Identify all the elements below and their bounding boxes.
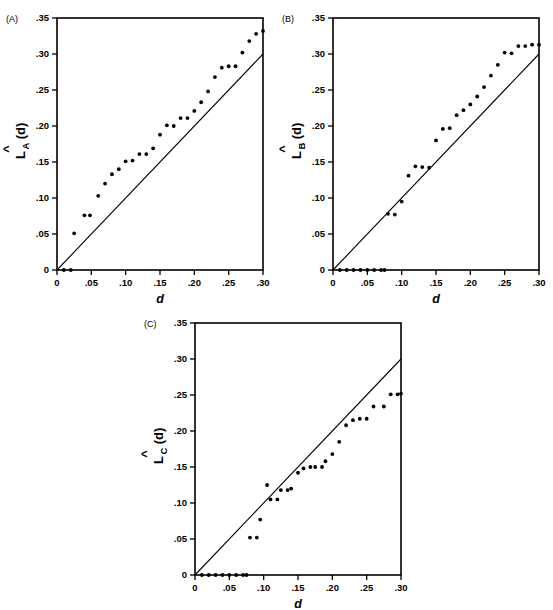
y-axis-title-tail-A: (d) bbox=[13, 123, 28, 140]
panel-label-A: (A) bbox=[6, 14, 18, 24]
data-point bbox=[199, 100, 203, 104]
data-point bbox=[258, 518, 262, 522]
data-series-A-0 bbox=[62, 29, 265, 272]
y-tick-label-B-7: .35 bbox=[312, 12, 326, 23]
data-point bbox=[213, 75, 217, 79]
plot-a-content: (A)0.05.10.15.20.25.30.350.05.10.15.20.2… bbox=[0, 12, 270, 305]
x-tick-label-A-6: .30 bbox=[256, 277, 269, 288]
x-tick-label-C-5: .25 bbox=[360, 582, 374, 593]
reference-line-C bbox=[195, 359, 401, 575]
x-axis-title-A: d bbox=[156, 292, 164, 305]
data-point bbox=[296, 471, 300, 475]
data-point bbox=[302, 467, 306, 471]
data-point bbox=[344, 423, 348, 427]
y-axis-title-main-B: L bbox=[289, 151, 304, 159]
x-tick-label-B-2: .10 bbox=[395, 277, 408, 288]
reference-line-B bbox=[333, 54, 539, 270]
data-point bbox=[359, 268, 363, 272]
y-tick-label-B-0: 0 bbox=[320, 264, 325, 275]
x-tick-label-C-3: .15 bbox=[291, 582, 305, 593]
scatter-plot-a: (A)0.05.10.15.20.25.30.350.05.10.15.20.2… bbox=[0, 0, 277, 305]
y-tick-label-B-4: .20 bbox=[312, 120, 325, 131]
data-point bbox=[372, 405, 376, 409]
data-point bbox=[279, 488, 283, 492]
y-axis-title-C: ^LC(d) bbox=[138, 428, 169, 464]
x-tick-label-C-0: 0 bbox=[192, 582, 197, 593]
y-axis-title-A: ^LA(d) bbox=[0, 123, 31, 159]
plot-frame-A bbox=[57, 18, 263, 270]
data-point bbox=[117, 167, 121, 171]
panel-label-B: (B) bbox=[282, 14, 294, 24]
data-point bbox=[379, 268, 383, 272]
data-point bbox=[345, 268, 349, 272]
data-point bbox=[386, 212, 390, 216]
data-point bbox=[389, 392, 393, 396]
y-axis-title-main-A: L bbox=[13, 151, 28, 159]
panel-label-C: (C) bbox=[144, 319, 157, 329]
y-axis-title-subscript-A: A bbox=[20, 142, 31, 149]
data-point bbox=[241, 573, 245, 577]
y-tick-label-A-5: .25 bbox=[36, 84, 50, 95]
data-point bbox=[414, 164, 418, 168]
data-series-B-0 bbox=[338, 43, 541, 272]
x-tick-label-B-6: .30 bbox=[532, 277, 545, 288]
data-point bbox=[207, 573, 211, 577]
data-point bbox=[200, 573, 204, 577]
x-tick-label-B-1: .05 bbox=[361, 277, 375, 288]
data-point bbox=[434, 139, 438, 143]
y-tick-label-A-3: .15 bbox=[36, 156, 50, 167]
data-point bbox=[382, 405, 386, 409]
x-tick-label-C-4: .20 bbox=[326, 582, 339, 593]
scatter-plot-b: (B)0.05.10.15.20.25.30.350.05.10.15.20.2… bbox=[276, 0, 553, 305]
y-axis-title-subscript-C: C bbox=[158, 447, 169, 454]
x-tick-label-B-3: .15 bbox=[429, 277, 443, 288]
data-point bbox=[165, 123, 169, 127]
data-point bbox=[393, 213, 397, 217]
data-point bbox=[124, 159, 128, 163]
data-point bbox=[62, 268, 66, 272]
y-tick-label-C-4: .20 bbox=[174, 425, 187, 436]
data-point bbox=[358, 417, 362, 421]
data-point bbox=[72, 231, 76, 235]
y-tick-label-A-2: .10 bbox=[36, 192, 49, 203]
data-point bbox=[192, 109, 196, 113]
data-point bbox=[441, 127, 445, 131]
data-point bbox=[158, 133, 162, 137]
data-point bbox=[265, 483, 269, 487]
x-tick-label-C-2: .10 bbox=[257, 582, 270, 593]
data-point bbox=[220, 66, 224, 70]
data-point bbox=[330, 452, 334, 456]
data-point bbox=[83, 213, 87, 217]
data-point bbox=[214, 573, 218, 577]
data-point bbox=[468, 103, 472, 107]
data-series-C-0 bbox=[200, 392, 403, 577]
plot-frame-C bbox=[195, 323, 401, 575]
data-point bbox=[186, 116, 190, 120]
x-tick-label-A-3: .15 bbox=[153, 277, 167, 288]
data-point bbox=[337, 440, 341, 444]
x-axis-title-B: d bbox=[432, 292, 440, 305]
data-point bbox=[227, 573, 231, 577]
x-tick-label-C-6: .30 bbox=[394, 582, 407, 593]
figure-container: (A)0.05.10.15.20.25.30.350.05.10.15.20.2… bbox=[0, 0, 553, 610]
data-point bbox=[254, 32, 258, 36]
x-tick-label-A-0: 0 bbox=[54, 277, 59, 288]
y-tick-label-A-7: .35 bbox=[36, 12, 50, 23]
data-point bbox=[241, 51, 245, 55]
y-tick-label-B-5: .25 bbox=[312, 84, 326, 95]
data-point bbox=[234, 573, 238, 577]
y-tick-label-A-4: .20 bbox=[36, 120, 49, 131]
data-point bbox=[448, 126, 452, 130]
data-point bbox=[308, 465, 312, 469]
data-point bbox=[131, 159, 135, 163]
x-axis-title-C: d bbox=[294, 597, 302, 610]
x-tick-label-B-4: .20 bbox=[464, 277, 477, 288]
data-point bbox=[396, 392, 400, 396]
data-point bbox=[261, 29, 265, 33]
data-point bbox=[517, 44, 521, 48]
data-point bbox=[69, 268, 73, 272]
scatter-plot-c: (C)0.05.10.15.20.25.30.350.05.10.15.20.2… bbox=[138, 305, 415, 610]
data-point bbox=[365, 268, 369, 272]
data-point bbox=[138, 152, 142, 156]
data-point bbox=[475, 95, 479, 99]
